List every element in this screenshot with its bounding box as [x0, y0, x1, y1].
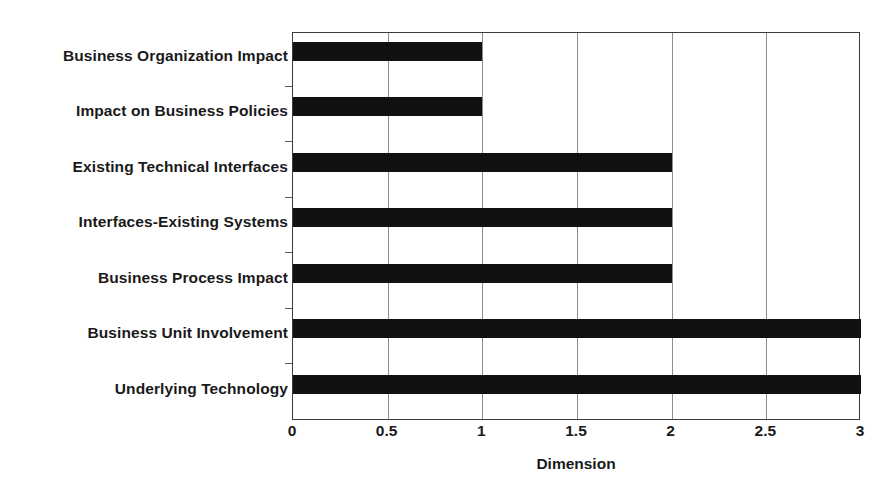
plot-area — [292, 32, 860, 420]
x-axis-tick-label: 2.5 — [735, 423, 795, 439]
bar — [293, 375, 861, 394]
x-axis-tick-label: 0.5 — [357, 423, 417, 439]
bar — [293, 153, 672, 172]
category-label: Business Process Impact — [0, 270, 288, 286]
gridline-2.0 — [672, 33, 673, 419]
horizontal-bar-chart: Business Organization Impact Impact on B… — [0, 0, 889, 493]
category-label: Interfaces-Existing Systems — [0, 214, 288, 230]
bar — [293, 42, 482, 61]
x-axis-tick-label: 1 — [451, 423, 511, 439]
x-axis-tick-label: 0 — [262, 423, 322, 439]
bar — [293, 319, 861, 338]
x-axis-tick-label: 1.5 — [546, 423, 606, 439]
category-label: Business Organization Impact — [0, 48, 288, 64]
category-label: Existing Technical Interfaces — [0, 159, 288, 175]
category-label: Underlying Technology — [0, 381, 288, 397]
category-label: Impact on Business Policies — [0, 103, 288, 119]
x-axis-tick-label: 3 — [830, 423, 889, 439]
gridline-2.5 — [766, 33, 767, 419]
x-axis-tick-label: 2 — [641, 423, 701, 439]
bar — [293, 208, 672, 227]
bar — [293, 97, 482, 116]
x-axis-title: Dimension — [292, 456, 860, 472]
bar — [293, 264, 672, 283]
category-label: Business Unit Involvement — [0, 325, 288, 341]
